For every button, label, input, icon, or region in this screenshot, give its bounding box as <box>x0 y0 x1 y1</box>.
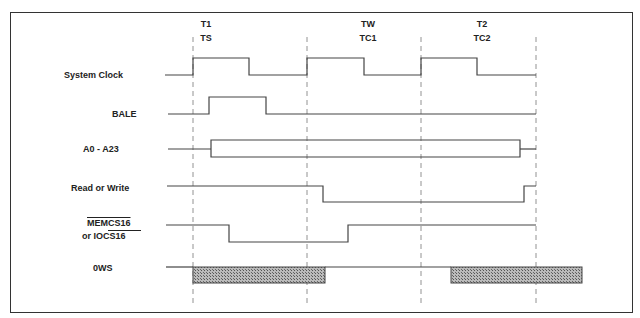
memcs16-waveform <box>166 225 536 242</box>
read-write-waveform <box>167 186 536 202</box>
0ws-hatched-region-1 <box>193 267 325 283</box>
bale-waveform <box>168 97 536 114</box>
timing-diagram <box>0 0 640 318</box>
address-valid-window <box>211 140 520 157</box>
0ws-hatched-region-2 <box>451 267 582 283</box>
phase-dividers <box>193 37 536 304</box>
system-clock-waveform <box>165 58 536 75</box>
